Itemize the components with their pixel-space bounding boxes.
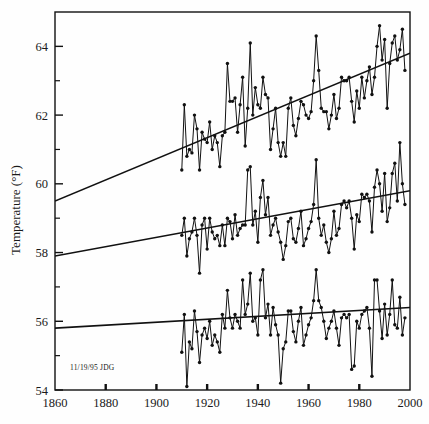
data-point [294, 241, 297, 244]
data-point [259, 196, 262, 199]
data-point [309, 110, 312, 113]
data-point [396, 326, 399, 329]
data-point [266, 96, 269, 99]
data-point [287, 220, 290, 223]
data-point [264, 213, 267, 216]
data-point [314, 34, 317, 37]
data-point [385, 107, 388, 110]
data-point [309, 220, 312, 223]
data-point [365, 79, 368, 82]
data-point [276, 230, 279, 233]
data-point [228, 316, 231, 319]
data-point [320, 107, 323, 110]
data-point [269, 333, 272, 336]
data-point [396, 58, 399, 61]
data-point [320, 234, 323, 237]
data-point [393, 162, 396, 165]
data-point [330, 237, 333, 240]
data-point [345, 206, 348, 209]
data-point [393, 34, 396, 37]
data-point [332, 309, 335, 312]
data-point [279, 155, 282, 158]
data-point [216, 234, 219, 237]
data-point [238, 326, 241, 329]
data-point [271, 127, 274, 130]
data-point [276, 141, 279, 144]
data-point [269, 234, 272, 237]
data-point [236, 320, 239, 323]
data-point [183, 313, 186, 316]
data-point [208, 216, 211, 219]
data-point [221, 134, 224, 137]
data-point [236, 234, 239, 237]
data-point [261, 179, 264, 182]
data-point [231, 237, 234, 240]
data-point [211, 148, 214, 151]
data-point [378, 309, 381, 312]
data-point [251, 223, 254, 226]
data-point [388, 206, 391, 209]
data-point [249, 271, 252, 274]
data-point [378, 24, 381, 27]
y-tick-label: 56 [36, 315, 49, 329]
data-point [327, 127, 330, 130]
data-point [200, 333, 203, 336]
data-point [254, 86, 257, 89]
data-point [185, 155, 188, 158]
data-point [299, 210, 302, 213]
x-tick-label: 1880 [93, 396, 118, 410]
data-point [243, 313, 246, 316]
data-point [282, 347, 285, 350]
data-point [307, 323, 310, 326]
data-point [363, 196, 366, 199]
data-point [254, 210, 257, 213]
data-point [266, 302, 269, 305]
data-point [246, 302, 249, 305]
data-point [360, 76, 363, 79]
data-point [276, 333, 279, 336]
data-point [335, 234, 338, 237]
data-point [256, 103, 259, 106]
y-axis-title: Temperature (°F) [8, 165, 23, 255]
x-tick-label: 1900 [144, 396, 169, 410]
data-point [193, 113, 196, 116]
data-point [228, 220, 231, 223]
data-point [282, 141, 285, 144]
data-point [353, 364, 356, 367]
data-point [383, 172, 386, 175]
data-point [332, 93, 335, 96]
data-point [264, 316, 267, 319]
series-line [182, 26, 405, 170]
data-point [307, 227, 310, 230]
data-point [226, 289, 229, 292]
data-point [294, 340, 297, 343]
data-point [398, 141, 401, 144]
data-point [266, 196, 269, 199]
data-point [183, 216, 186, 219]
data-point [203, 216, 206, 219]
y-tick-label: 64 [36, 40, 49, 54]
data-point [200, 131, 203, 134]
data-point [327, 326, 330, 329]
data-point [292, 124, 295, 127]
data-point [385, 220, 388, 223]
data-point [347, 76, 350, 79]
data-point [370, 230, 373, 233]
data-point [368, 65, 371, 68]
data-point [279, 241, 282, 244]
data-point [259, 107, 262, 110]
data-point [307, 117, 310, 120]
data-point [388, 62, 391, 65]
y-tick-label: 58 [36, 246, 49, 260]
data-point [190, 151, 193, 154]
data-point [370, 93, 373, 96]
data-point [233, 313, 236, 316]
data-point [188, 237, 191, 240]
data-point [180, 351, 183, 354]
data-point [208, 120, 211, 123]
data-point [256, 333, 259, 336]
data-point [231, 326, 234, 329]
data-point [340, 316, 343, 319]
data-point [340, 203, 343, 206]
data-point [203, 326, 206, 329]
